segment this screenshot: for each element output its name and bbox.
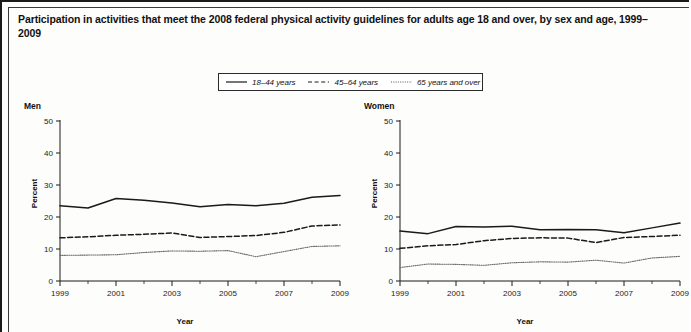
plot-area-men: 01020304050199920012003200520072009	[20, 115, 350, 311]
svg-text:1999: 1999	[51, 289, 69, 298]
dotted-line-icon	[391, 78, 412, 86]
svg-text:2003: 2003	[163, 289, 181, 298]
svg-text:20: 20	[384, 213, 393, 222]
svg-text:20: 20	[44, 213, 53, 222]
solid-line-icon	[226, 78, 247, 86]
legend-label-45-64: 45–64 years	[334, 78, 377, 87]
svg-text:30: 30	[384, 181, 393, 190]
svg-text:50: 50	[44, 117, 53, 126]
series-line-dashed	[60, 225, 340, 238]
series-line-solid	[60, 196, 340, 208]
x-axis-title-women: Year	[360, 317, 690, 326]
svg-text:30: 30	[44, 181, 53, 190]
legend-item-18-44: 18–44 years	[226, 78, 295, 87]
dashed-line-icon	[308, 78, 329, 86]
svg-text:1999: 1999	[391, 289, 409, 298]
legend-item-45-64: 45–64 years	[308, 78, 377, 87]
series-line-solid	[400, 223, 680, 234]
chart-legend: 18–44 years 45–64 years 65 years and ove…	[218, 73, 483, 91]
svg-text:10: 10	[44, 245, 53, 254]
svg-text:0: 0	[389, 277, 394, 286]
figure-title: Participation in activities that meet th…	[18, 13, 668, 40]
legend-label-65-over: 65 years and over	[417, 78, 480, 87]
svg-text:2001: 2001	[107, 289, 125, 298]
legend-item-65-over: 65 years and over	[391, 78, 480, 87]
svg-text:2009: 2009	[331, 289, 349, 298]
svg-text:2009: 2009	[671, 289, 689, 298]
svg-text:50: 50	[384, 117, 393, 126]
panel-title-men: Men	[24, 101, 41, 111]
chart-panel-men: Men Percent 0102030405019992001200320052…	[20, 101, 350, 326]
svg-text:40: 40	[44, 149, 53, 158]
panel-title-women: Women	[364, 101, 395, 111]
svg-text:2007: 2007	[275, 289, 293, 298]
svg-text:2007: 2007	[615, 289, 633, 298]
x-axis-title-men: Year	[20, 317, 350, 326]
svg-text:2005: 2005	[559, 289, 577, 298]
svg-text:10: 10	[384, 245, 393, 254]
svg-text:40: 40	[384, 149, 393, 158]
svg-text:2005: 2005	[219, 289, 237, 298]
series-line-dotted	[400, 256, 680, 267]
series-line-dotted	[60, 246, 340, 257]
chart-panel-women: Women Percent 01020304050199920012003200…	[360, 101, 690, 326]
svg-text:2001: 2001	[447, 289, 465, 298]
plot-area-women: 01020304050199920012003200520072009	[360, 115, 690, 311]
legend-label-18-44: 18–44 years	[252, 78, 295, 87]
series-line-dashed	[400, 235, 680, 248]
svg-text:2003: 2003	[503, 289, 521, 298]
svg-text:0: 0	[49, 277, 54, 286]
